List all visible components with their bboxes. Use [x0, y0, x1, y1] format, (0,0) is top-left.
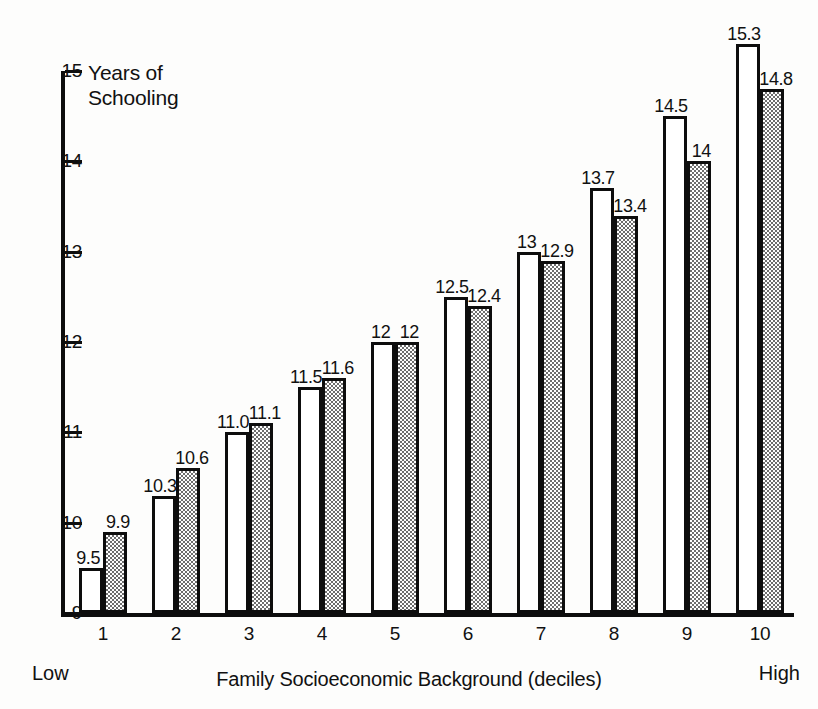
bar-value-label: 11.5 [290, 368, 322, 386]
bars-layer: 9.59.910.310.611.011.111.511.6121212.512… [0, 0, 818, 709]
x-axis-category-label: 7 [511, 624, 571, 644]
bar: 11.6 [322, 378, 346, 613]
x-axis-category-label: 10 [730, 624, 790, 644]
bar-value-label: 13.4 [613, 197, 646, 215]
bar-value-label: 12 [400, 323, 419, 341]
bar: 15.3 [736, 44, 760, 613]
bar-value-label: 14 [692, 142, 711, 160]
bar-value-label: 12.9 [540, 242, 573, 260]
bar: 12.9 [541, 261, 565, 613]
bar-value-label: 11.0 [217, 413, 249, 431]
x-axis-category-label: 1 [73, 624, 133, 644]
bar: 12 [395, 342, 419, 613]
bar: 9.5 [79, 568, 103, 613]
bar: 9.9 [103, 532, 127, 613]
x-axis-category-label: 6 [438, 624, 498, 644]
x-axis-title: Family Socioeconomic Background (deciles… [0, 668, 818, 690]
bar-value-label: 15.3 [727, 25, 760, 43]
x-axis-category-label: 3 [219, 624, 279, 644]
bar: 14.5 [663, 116, 687, 613]
bar-value-label: 11.1 [249, 404, 281, 422]
x-axis-category-label: 4 [292, 624, 352, 644]
bar: 13.7 [590, 188, 614, 613]
bar: 14.8 [760, 89, 784, 613]
bar: 10.6 [176, 468, 200, 613]
bar: 13.4 [614, 216, 638, 613]
bar-value-label: 14.8 [759, 70, 792, 88]
x-axis-category-label: 9 [657, 624, 717, 644]
bar-value-label: 9.9 [106, 513, 130, 531]
bar-value-label: 13.7 [581, 169, 614, 187]
bar: 11.0 [225, 432, 249, 613]
bar: 14 [687, 161, 711, 613]
bar-value-label: 12 [371, 323, 390, 341]
bar: 10.3 [152, 496, 176, 613]
bar-value-label: 12.5 [435, 278, 468, 296]
bar-value-label: 10.3 [143, 477, 176, 495]
x-axis-category-label: 5 [365, 624, 425, 644]
bar-value-label: 12.4 [467, 287, 500, 305]
bar: 12 [371, 342, 395, 613]
bar-value-label: 9.5 [76, 549, 100, 567]
bar-chart: Years of Schooling 9101112131415 9.59.91… [0, 0, 818, 709]
bar-value-label: 11.6 [322, 359, 354, 377]
bar: 13 [517, 252, 541, 613]
bar: 11.5 [298, 387, 322, 613]
bar-value-label: 10.6 [175, 449, 208, 467]
bar: 11.1 [249, 423, 273, 613]
bar-value-label: 14.5 [654, 97, 687, 115]
bar: 12.5 [444, 297, 468, 613]
x-axis-category-label: 8 [584, 624, 644, 644]
bar: 12.4 [468, 306, 492, 613]
bar-value-label: 13 [517, 233, 536, 251]
x-axis-category-label: 2 [146, 624, 206, 644]
